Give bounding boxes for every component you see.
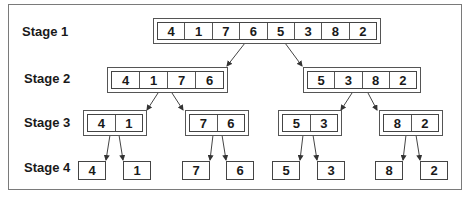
array-cell: 2	[412, 115, 439, 131]
arrow-s3a-to-4	[106, 135, 110, 160]
arrow-s2l-to-s3-b	[172, 93, 183, 110]
stage-4-element: 2	[420, 161, 448, 180]
stage-4-element: 8	[375, 161, 403, 180]
array-cell: 8	[363, 72, 390, 88]
arrow-s3c-to-5	[300, 135, 303, 160]
array-cell: 3	[295, 23, 322, 39]
stage-3-array-4: 8 2	[379, 110, 443, 136]
array-cell: 6	[240, 23, 267, 39]
array-cell: 3	[335, 72, 362, 88]
stage-4-element: 6	[226, 161, 254, 180]
array-cell: 1	[116, 115, 143, 131]
array-cell: 5	[283, 115, 311, 131]
arrow-s2l-to-s3-a	[147, 93, 158, 110]
arrow-s1-to-s2-right	[285, 43, 302, 66]
stage-3-array-3: 5 3	[278, 110, 342, 136]
arrow-s2r-to-s3-d	[368, 93, 377, 110]
stage-3-array-1: 4 1	[83, 110, 147, 136]
arrow-s2r-to-s3-c	[341, 93, 352, 110]
array-cell: 7	[213, 23, 240, 39]
array-cell: 1	[185, 23, 212, 39]
array-cell: 2	[390, 72, 416, 88]
stage-3-array-2: 7 6	[185, 110, 249, 136]
array-cell: 4	[158, 23, 185, 39]
array-cell: 5	[268, 23, 295, 39]
array-cell: 2	[350, 23, 376, 39]
array-cell: 8	[384, 115, 412, 131]
stage-2-array-left: 4 1 7 6	[107, 67, 228, 93]
array-cell: 1	[140, 72, 168, 88]
stage-2-array-right: 5 3 8 2	[303, 67, 421, 93]
arrow-s3d-to-2	[416, 135, 420, 160]
stage-4-element: 7	[182, 161, 210, 180]
stage-4-element: 4	[78, 161, 106, 180]
stage-4-element: 3	[317, 161, 345, 180]
arrow-s3c-to-3	[313, 135, 317, 160]
arrow-s3a-to-1	[119, 135, 123, 160]
array-cell: 7	[168, 72, 196, 88]
array-cell: 3	[311, 115, 338, 131]
arrow-s3d-to-8	[403, 135, 406, 160]
array-cell: 6	[218, 115, 245, 131]
stage-1-array: 4 1 7 6 5 3 8 2	[153, 18, 381, 44]
stage-4-element: 5	[272, 161, 300, 180]
array-cell: 7	[190, 115, 218, 131]
array-cell: 5	[308, 72, 335, 88]
array-cell: 8	[322, 23, 349, 39]
arrow-s1-to-s2-left	[227, 43, 245, 66]
stage-4-element: 1	[123, 161, 151, 180]
array-cell: 4	[88, 115, 116, 131]
arrow-s3b-to-6	[222, 135, 226, 160]
array-cell: 4	[112, 72, 140, 88]
arrow-s3b-to-7	[210, 135, 213, 160]
array-cell: 6	[196, 72, 223, 88]
